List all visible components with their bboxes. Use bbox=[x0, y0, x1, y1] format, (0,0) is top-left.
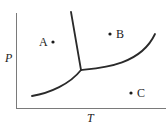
point-c-marker bbox=[129, 91, 132, 94]
sublimation-curve bbox=[32, 70, 81, 96]
x-axis-label: T bbox=[87, 111, 95, 125]
point-b-marker bbox=[108, 32, 111, 35]
point-a-label: A bbox=[39, 35, 48, 49]
y-axis-label: P bbox=[4, 51, 13, 65]
phase-diagram: P T A B C bbox=[0, 0, 168, 127]
solid-liquid-boundary bbox=[71, 12, 81, 70]
point-b-label: B bbox=[116, 27, 124, 41]
point-a-marker bbox=[51, 40, 54, 43]
point-c-label: C bbox=[137, 86, 145, 100]
